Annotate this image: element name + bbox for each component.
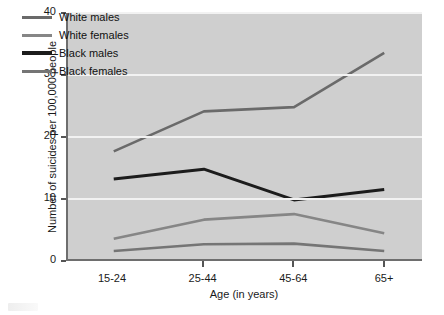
x-tick-mark (292, 261, 294, 267)
y-tick-label: 10 (16, 191, 56, 203)
x-tick-label: 15-24 (77, 272, 147, 284)
legend-swatch-line-icon (22, 16, 52, 19)
legend-item-white-females[interactable]: White females (22, 26, 129, 44)
legend-item-black-males[interactable]: Black males (22, 44, 129, 62)
chart-legend: White malesWhite femalesBlack malesBlack… (22, 8, 129, 80)
series-line-black-females (114, 244, 384, 251)
x-tick-mark (202, 261, 204, 267)
series-line-white-females (114, 214, 384, 239)
legend-label: Black males (59, 47, 118, 59)
x-tick-label: 45-64 (258, 272, 328, 284)
legend-item-black-females[interactable]: Black females (22, 62, 129, 80)
legend-label: Black females (59, 65, 127, 77)
legend-label: White females (59, 29, 129, 41)
chart-figure: Number of suicides per 100,000 people 01… (0, 0, 444, 315)
legend-item-white-males[interactable]: White males (22, 8, 129, 26)
legend-swatch-line-icon (22, 34, 52, 37)
y-tick-mark-20 (61, 136, 66, 138)
y-tick-label: 0 (16, 253, 56, 265)
y-tick-label: 20 (16, 129, 56, 141)
y-tick-mark-0 (61, 260, 66, 262)
gridline-y-20 (68, 136, 422, 138)
series-line-black-males (114, 169, 384, 200)
x-axis-title: Age (in years) (66, 288, 422, 300)
gridline-y-10 (68, 198, 422, 200)
page-artifact (8, 303, 38, 311)
y-tick-mark-10 (61, 198, 66, 200)
legend-label: White males (59, 11, 120, 23)
legend-swatch-line-icon (22, 51, 52, 55)
legend-swatch-line-icon (22, 70, 52, 73)
x-tick-label: 25-44 (168, 272, 238, 284)
x-tick-label: 65+ (349, 272, 419, 284)
x-tick-mark (383, 261, 385, 267)
